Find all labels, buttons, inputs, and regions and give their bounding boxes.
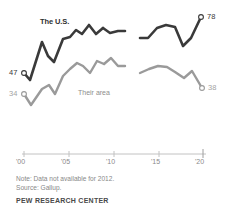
pew-research-center-brand: PEW RESEARCH CENTER [16, 197, 216, 204]
footnotes: Note: Data not available for 2012. Sourc… [16, 174, 216, 204]
endpoint-label-their-start: 34 [9, 89, 17, 98]
x-tick-label-2015: '15 [151, 158, 160, 165]
x-tick-label-2020: '20 [195, 158, 204, 165]
their-area-line-segment-left [24, 61, 104, 105]
us-start-marker [22, 71, 27, 76]
x-tick-label-2005: '05 [61, 158, 70, 165]
us-end-marker [199, 15, 204, 20]
endpoint-label-their-end: 38 [208, 83, 216, 92]
their-start-marker [22, 92, 27, 97]
series-label-their-area: Their area [78, 89, 110, 96]
series-label-us: The U.S. [40, 17, 69, 26]
us-line-segment-right [140, 17, 201, 46]
endpoint-label-us-start: 47 [9, 68, 17, 77]
chart-source: Source: Gallup. [16, 183, 216, 192]
their-area-line-segment-right [140, 66, 202, 88]
chart-note: Note: Data not available for 2012. [16, 174, 216, 183]
x-tick-label-2000: '00 [16, 158, 25, 165]
endpoint-label-us-end: 78 [207, 12, 215, 21]
us-line-segment-left-tail [103, 28, 125, 33]
their-end-marker [200, 86, 205, 91]
x-tick-label-2010: '10 [106, 158, 115, 165]
their-area-line-segment-left-tail [104, 58, 125, 66]
pew-line-chart: The U.S. Their area 47 78 34 38 '00 '05 … [0, 0, 229, 210]
